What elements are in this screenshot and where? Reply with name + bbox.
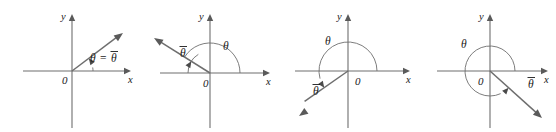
theta-label: θ: [325, 35, 331, 47]
y-axis-arrowhead: [487, 14, 493, 21]
y-axis-arrowhead: [345, 14, 351, 21]
panel-quadrant-1: θ=θ0xy: [23, 11, 133, 128]
equals-label: =: [100, 52, 107, 64]
theta-arc: [185, 43, 240, 73]
figure-canvas: θ=θ0xyθθ0xyθθ0xyθθ0xy: [0, 0, 556, 132]
theta-label: θ: [223, 40, 229, 52]
origin-label: 0: [355, 75, 361, 87]
reference-angle-figure: θ=θ0xyθθ0xyθθ0xyθθ0xy: [0, 0, 556, 132]
origin-label: 0: [62, 74, 68, 86]
theta-bar-label: θ: [313, 85, 319, 97]
y-axis-label: y: [198, 11, 204, 22]
origin-label: 0: [478, 75, 484, 87]
panels-layer: θ=θ0xyθθ0xyθθ0xyθθ0xy: [23, 11, 549, 128]
y-axis-label: y: [478, 11, 484, 22]
origin-label: 0: [203, 77, 209, 89]
terminal-ray-arrowhead: [114, 33, 123, 41]
theta-arc-arrowhead: [502, 88, 508, 95]
y-axis-label: y: [60, 11, 66, 22]
terminal-ray-arrowhead: [299, 108, 308, 116]
terminal-ray-arrowhead: [154, 38, 164, 46]
theta-label: θ: [90, 52, 96, 64]
x-axis-label: x: [265, 76, 271, 87]
y-axis-arrowhead: [207, 14, 213, 21]
y-axis-label: y: [336, 11, 342, 22]
theta-bar-label: θ: [180, 47, 186, 59]
y-axis-arrowhead: [69, 14, 75, 21]
panel-quadrant-4: θθ0xy: [437, 11, 549, 128]
terminal-ray: [305, 71, 348, 101]
theta-bar-label: θ: [111, 52, 117, 64]
panel-quadrant-2: θθ0xy: [154, 11, 271, 128]
x-axis-label: x: [405, 74, 411, 85]
x-axis-label: x: [127, 74, 133, 85]
theta-label: θ: [461, 38, 467, 50]
x-axis-label: x: [543, 74, 549, 85]
panel-quadrant-3: θθ0xy: [295, 11, 411, 128]
theta-bar-label: θ: [528, 78, 534, 90]
